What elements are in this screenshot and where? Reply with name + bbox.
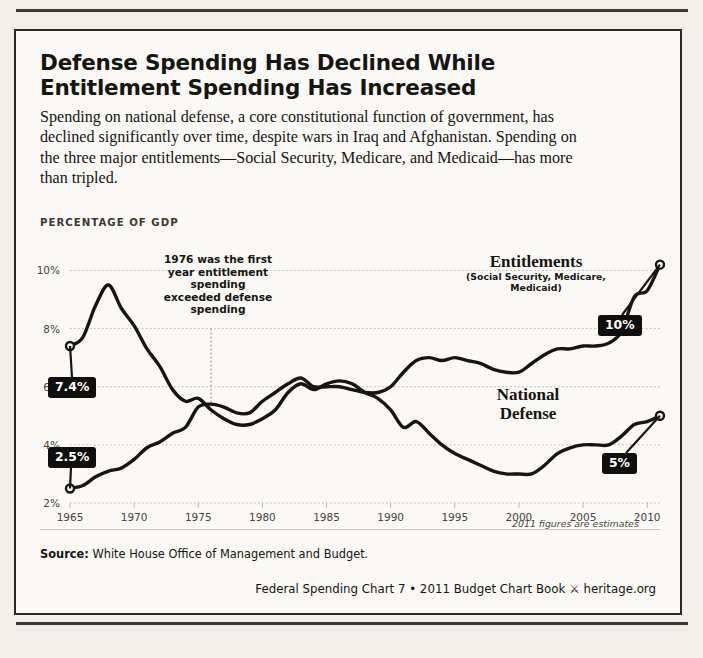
heritage-logo-icon: ⚔ [569,582,580,596]
bottom-rule [16,622,688,625]
x-tick-label: 1990 [371,511,411,523]
x-tick-label: 1995 [435,511,475,523]
x-tick-label: 1970 [114,511,154,523]
source-text: White House Office of Management and Bud… [92,547,368,561]
top-rule [16,9,688,12]
callout-entitlements-start: 2.5% [48,447,96,468]
y-tick-label: 10% [30,264,60,276]
y-tick-label: 8% [30,323,60,335]
callout-defense-end: 5% [602,453,637,474]
series-line-national-defense [70,285,660,475]
x-tick-label: 1965 [50,511,90,523]
chart-page: Defense Spending Has Declined While Enti… [0,0,703,658]
footer-divider [40,529,660,530]
crossover-annotation: 1976 was the first year entitlement spen… [163,253,273,316]
x-tick-label: 1975 [178,511,218,523]
x-tick-label: 1980 [242,511,282,523]
series-line-entitlements [70,265,660,489]
chart-frame: Defense Spending Has Declined While Enti… [14,29,682,615]
entitlements-sublabel: (Social Security, Medicare, Medicaid) [456,271,616,293]
entitlements-label: Entitlements [456,253,616,271]
credit-site: heritage.org [583,582,656,596]
callout-entitlements-end: 10% [598,315,642,336]
y-tick-label: 2% [30,497,60,509]
credit-line: Federal Spending Chart 7 • 2011 Budget C… [255,582,656,596]
national-defense-label: National Defense [468,385,588,423]
credit-text: Federal Spending Chart 7 • 2011 Budget C… [255,582,565,596]
source-label: Source: [40,547,89,561]
series-label-national-defense: National Defense [468,385,588,423]
callout-defense-start: 7.4% [48,377,96,398]
estimate-note: 2011 figures are estimates [512,518,639,529]
x-tick-label: 1985 [307,511,347,523]
series-label-entitlements: Entitlements (Social Security, Medicare,… [456,253,616,293]
source-line: Source: White House Office of Management… [40,547,368,561]
